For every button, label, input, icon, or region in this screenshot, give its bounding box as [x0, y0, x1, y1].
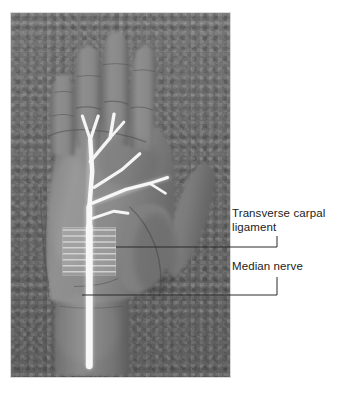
- figure-root: Transverse carpal ligament Median nerve: [0, 0, 340, 393]
- hand-photograph: [10, 12, 231, 378]
- label-transverse-carpal-ligament: Transverse carpal ligament: [232, 206, 336, 234]
- hand-photograph-content: [11, 13, 230, 376]
- fingers-group: [50, 32, 157, 156]
- label-median-nerve: Median nerve: [232, 259, 336, 273]
